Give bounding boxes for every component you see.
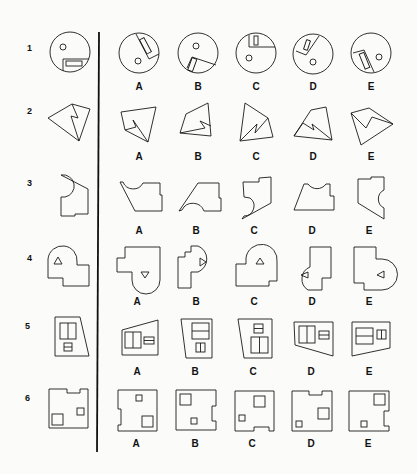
option-2b-icon[interactable]: [180, 103, 211, 136]
divider-line: [97, 32, 99, 452]
figures-canvas: [0, 0, 417, 474]
option-1b-icon[interactable]: [178, 33, 218, 73]
option-3c-icon[interactable]: [242, 177, 271, 219]
option-5a-icon[interactable]: [122, 320, 158, 355]
option-3e-icon[interactable]: [358, 177, 384, 219]
option-5d-icon[interactable]: [294, 322, 333, 356]
option-2e-icon[interactable]: [351, 108, 393, 145]
option-6e-icon[interactable]: [349, 391, 389, 431]
option-5b-icon[interactable]: [181, 319, 212, 358]
stimulus-1-icon: [50, 32, 90, 72]
option-6d-icon[interactable]: [292, 391, 332, 431]
option-2d-icon[interactable]: [294, 107, 332, 140]
stimulus-2-icon: [48, 104, 90, 141]
option-1d-icon[interactable]: [293, 34, 333, 74]
option-2c-icon[interactable]: [240, 103, 273, 141]
option-4a-icon[interactable]: [117, 247, 160, 294]
option-3d-icon[interactable]: [294, 184, 334, 210]
option-6c-icon[interactable]: [235, 391, 274, 431]
option-4d-icon[interactable]: [301, 247, 331, 290]
option-1c-icon[interactable]: [236, 33, 276, 73]
stimulus-3-icon: [61, 175, 88, 216]
test-sheet: 1 2 3 4 5 6 A B C D E A B C D E A B C D …: [0, 0, 417, 474]
option-6b-icon[interactable]: [176, 390, 216, 430]
option-3a-icon[interactable]: [120, 182, 162, 211]
stimulus-6-icon: [49, 389, 88, 428]
option-5c-icon[interactable]: [238, 319, 272, 358]
option-2a-icon[interactable]: [121, 107, 156, 142]
option-5e-icon[interactable]: [352, 322, 390, 356]
option-1a-icon[interactable]: [119, 33, 159, 73]
option-3b-icon[interactable]: [179, 183, 221, 211]
option-6a-icon[interactable]: [118, 390, 157, 431]
option-4b-icon[interactable]: [178, 246, 207, 288]
option-1e-icon[interactable]: [351, 33, 391, 73]
option-4c-icon[interactable]: [236, 244, 277, 286]
stimulus-4-icon: [48, 246, 89, 286]
stimulus-5-icon: [55, 317, 89, 356]
option-4e-icon[interactable]: [354, 247, 398, 290]
